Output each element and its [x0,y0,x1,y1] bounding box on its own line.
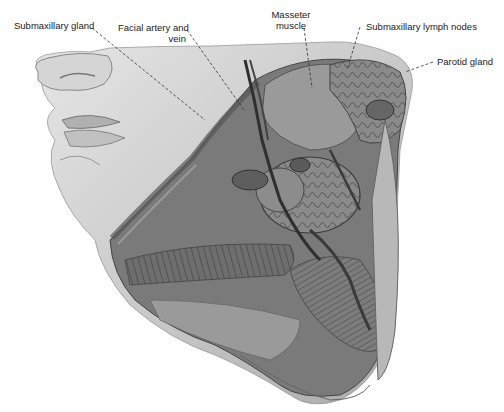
label-masseter-line2: muscle [265,20,317,31]
label-masseter-muscle: Masseter muscle [265,9,317,31]
label-submaxillary-gland: Submaxillary gland [14,20,94,31]
lymph-node [290,158,310,172]
label-facial-artery-line2: vein [118,33,186,44]
label-submaxillary-lymph-nodes: Submaxillary lymph nodes [366,21,477,32]
leader-parotid [405,62,433,72]
label-facial-artery-and-vein: Facial artery and vein [118,22,186,44]
label-parotid-gland: Parotid gland [437,56,493,67]
lymph-node [366,100,394,120]
label-facial-artery-line1: Facial artery and [118,22,186,33]
anatomical-illustration [0,0,504,412]
label-masseter-line1: Masseter [265,9,317,20]
nose [36,53,113,90]
